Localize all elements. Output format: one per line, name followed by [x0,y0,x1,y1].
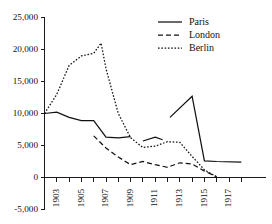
y-tick-label: 10,000 [13,108,39,118]
chart-container: -5,00005,00010,00015,00020,00025,000 190… [0,0,272,224]
y-tick-label: 25,000 [13,12,39,22]
series-line-berlin [45,43,217,177]
chart-legend: ParisLondonBerlin [158,16,220,53]
y-tick-label: -5,000 [14,204,38,214]
series-line-london [94,136,217,177]
legend-label-berlin: Berlin [189,42,214,53]
series-line-paris [45,112,131,138]
series-line-paris-segment-2 [143,137,163,141]
legend-label-paris: Paris [189,16,209,27]
x-tick-label: 1907 [100,188,110,207]
y-axis-tick-labels: -5,00005,00010,00015,00020,00025,000 [13,12,39,214]
x-axis-ticks [45,178,242,183]
x-tick-label: 1905 [76,188,86,207]
x-tick-label: 1915 [199,188,209,207]
data-series-group [45,43,242,177]
y-tick-label: 5,000 [17,140,38,150]
x-tick-label: 1913 [174,188,184,207]
y-axis-ticks [41,18,45,210]
legend-label-london: London [189,29,220,40]
x-tick-label: 1917 [223,188,233,207]
x-tick-label: 1911 [149,189,159,207]
line-chart: -5,00005,00010,00015,00020,00025,000 190… [0,0,272,224]
x-tick-label: 1903 [51,188,61,207]
y-axis: -5,00005,00010,00015,00020,00025,000 [13,12,45,214]
x-tick-label: 1909 [125,188,135,207]
x-axis-tick-labels: 19031905190719091911191319151917 [51,188,233,207]
x-axis: 19031905190719091911191319151917 [45,178,267,208]
y-tick-label: 0 [33,172,38,182]
y-tick-label: 15,000 [13,76,39,86]
series-line-paris-segment-3 [170,96,241,162]
y-tick-label: 20,000 [13,44,39,54]
